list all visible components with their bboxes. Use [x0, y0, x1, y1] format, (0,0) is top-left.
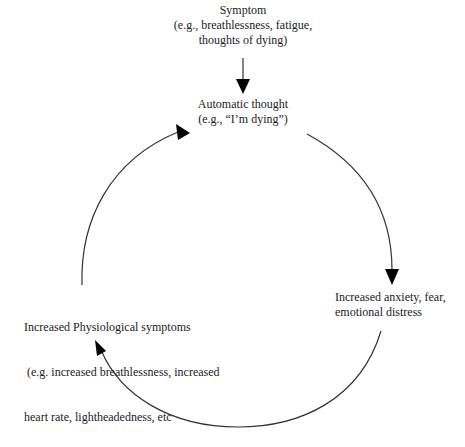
arrow-physiological-to-thought: [82, 132, 178, 285]
node-symptom-example-cont: thoughts of dying): [143, 33, 343, 48]
node-anxiety: Increased anxiety, fear, emotional distr…: [335, 290, 446, 320]
node-symptom-title: Symptom: [143, 3, 343, 18]
arrowhead-icon: [385, 269, 399, 285]
node-automatic-thought-example: (e.g., “I’m dying”): [163, 112, 323, 127]
node-physiological: Increased Physiological symptoms (e.g. i…: [24, 290, 220, 440]
node-physiological-example: (e.g. increased breathlessness, increase…: [24, 365, 220, 380]
node-automatic-thought: Automatic thought (e.g., “I’m dying”): [163, 97, 323, 127]
node-physiological-title: Increased Physiological symptoms: [24, 320, 220, 335]
arrow-thought-to-anxiety: [307, 134, 392, 270]
node-anxiety-title: Increased anxiety, fear,: [335, 290, 446, 305]
node-symptom-example: (e.g., breathlessness, fatigue,: [143, 18, 343, 33]
node-automatic-thought-title: Automatic thought: [163, 97, 323, 112]
node-symptom: Symptom (e.g., breathlessness, fatigue, …: [143, 3, 343, 48]
arrowhead-icon: [236, 79, 250, 94]
node-anxiety-cont: emotional distress: [335, 305, 446, 320]
node-physiological-example-cont: heart rate, lightheadedness, etc: [24, 410, 220, 425]
